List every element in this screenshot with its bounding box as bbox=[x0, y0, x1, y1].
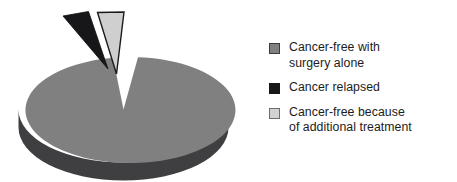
pie-slice-top-cancer-free-surgery bbox=[25, 57, 235, 163]
legend-swatch-cancer-free-surgery bbox=[269, 43, 280, 54]
chart-legend: Cancer-free with surgery alone Cancer re… bbox=[269, 40, 457, 145]
legend-item-cancer-free-surgery: Cancer-free with surgery alone bbox=[269, 40, 457, 71]
legend-label-cancer-relapsed: Cancer relapsed bbox=[289, 80, 380, 96]
pie-svg bbox=[0, 0, 250, 182]
legend-label-cancer-free-surgery: Cancer-free with surgery alone bbox=[289, 40, 380, 71]
pie-chart-graphic bbox=[0, 0, 250, 182]
legend-item-cancer-free-additional: Cancer-free because of additional treatm… bbox=[269, 105, 457, 136]
legend-swatch-cancer-relapsed bbox=[269, 83, 280, 94]
legend-label-cancer-free-additional: Cancer-free because of additional treatm… bbox=[289, 105, 412, 136]
legend-swatch-cancer-free-additional bbox=[269, 108, 280, 119]
legend-item-cancer-relapsed: Cancer relapsed bbox=[269, 80, 457, 96]
pie-chart-figure: Cancer-free with surgery alone Cancer re… bbox=[0, 0, 457, 182]
